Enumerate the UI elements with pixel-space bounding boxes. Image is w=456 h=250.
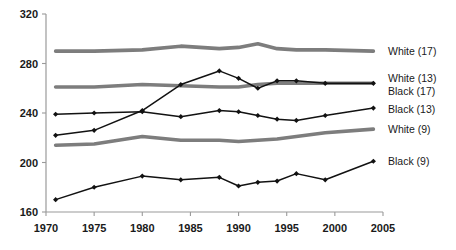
data-point-marker bbox=[53, 197, 58, 202]
series-label: Black (9) bbox=[388, 155, 429, 167]
data-point-marker bbox=[236, 183, 241, 188]
series-label: Black (17) bbox=[388, 85, 435, 97]
x-tick-label: 1975 bbox=[82, 222, 106, 234]
series-white-9 bbox=[56, 129, 374, 145]
data-point-marker bbox=[323, 81, 328, 86]
data-point-marker bbox=[217, 175, 222, 180]
series-black-13 bbox=[53, 105, 376, 123]
x-tick-label: 2005 bbox=[371, 222, 395, 234]
series-black-9 bbox=[53, 159, 376, 203]
y-axis-tick-labels: 160200240280320 bbox=[20, 8, 38, 218]
series-white-17 bbox=[56, 44, 374, 51]
y-tick-label: 240 bbox=[20, 107, 38, 119]
data-point-marker bbox=[255, 113, 260, 118]
x-tick-label: 1980 bbox=[130, 222, 154, 234]
data-point-marker bbox=[323, 113, 328, 118]
series-path bbox=[56, 44, 374, 51]
series-black-17 bbox=[53, 68, 376, 138]
data-point-marker bbox=[371, 81, 376, 86]
data-point-marker bbox=[294, 171, 299, 176]
data-point-marker bbox=[217, 68, 222, 73]
x-tick-label: 1985 bbox=[178, 222, 202, 234]
x-tick-label: 1995 bbox=[274, 222, 298, 234]
series-path bbox=[56, 129, 374, 145]
x-axis-tick-labels: 19701975198019851990199520002005 bbox=[34, 222, 395, 234]
data-point-marker bbox=[323, 177, 328, 182]
x-tick-label: 2000 bbox=[323, 222, 347, 234]
data-point-marker bbox=[178, 177, 183, 182]
data-point-marker bbox=[140, 174, 145, 179]
series-label: White (9) bbox=[388, 123, 431, 135]
data-point-marker bbox=[53, 133, 58, 138]
x-tick-label: 1970 bbox=[34, 222, 58, 234]
data-point-marker bbox=[236, 109, 241, 114]
chart-container: 160200240280320 197019751980198519901995… bbox=[0, 0, 456, 250]
series-label: White (17) bbox=[388, 45, 436, 57]
y-tick-label: 320 bbox=[20, 8, 38, 20]
data-point-marker bbox=[371, 159, 376, 164]
data-point-marker bbox=[178, 114, 183, 119]
y-tick-label: 280 bbox=[20, 58, 38, 70]
series-path bbox=[56, 71, 374, 135]
data-point-marker bbox=[274, 117, 279, 122]
x-tick-label: 1990 bbox=[226, 222, 250, 234]
y-tick-label: 160 bbox=[20, 206, 38, 218]
series-layer bbox=[53, 44, 376, 203]
y-tick-label: 200 bbox=[20, 157, 38, 169]
line-chart: 160200240280320 197019751980198519901995… bbox=[0, 0, 456, 250]
data-point-marker bbox=[92, 185, 97, 190]
data-point-marker bbox=[236, 76, 241, 81]
data-point-marker bbox=[274, 178, 279, 183]
data-point-marker bbox=[294, 118, 299, 123]
series-label: Black (13) bbox=[388, 103, 435, 115]
series-labels: White (17)White (13)Black (17)Black (13)… bbox=[388, 45, 436, 167]
data-point-marker bbox=[217, 108, 222, 113]
data-point-marker bbox=[92, 128, 97, 133]
data-point-marker bbox=[53, 112, 58, 117]
data-point-marker bbox=[255, 180, 260, 185]
series-label: White (13) bbox=[388, 72, 436, 84]
x-axis-ticks bbox=[46, 212, 383, 216]
data-point-marker bbox=[371, 105, 376, 110]
data-point-marker bbox=[92, 110, 97, 115]
